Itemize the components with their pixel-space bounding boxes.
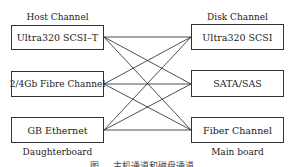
figure-caption: 图 … 主机通道和磁盘通道… bbox=[0, 159, 293, 167]
node-label: Ultra320 SCSI bbox=[202, 32, 272, 43]
node-label: GB Ethernet bbox=[27, 125, 87, 136]
node-label: SATA/SAS bbox=[213, 78, 262, 89]
host-node-ultra320-scsi-t: Ultra320 SCSI–T bbox=[11, 25, 104, 50]
disk-node-fiber-channel: Fiber Channel bbox=[191, 117, 284, 143]
daughterboard-label: Daughterboard bbox=[11, 147, 104, 157]
disk-node-ultra320-scsi: Ultra320 SCSI bbox=[191, 24, 284, 50]
node-label: Fiber Channel bbox=[203, 125, 272, 136]
node-label: Ultra320 SCSI–T bbox=[17, 32, 98, 43]
main-board-label: Main board bbox=[191, 147, 284, 157]
disk-node-sata-sas: SATA/SAS bbox=[191, 70, 284, 97]
host-node-gb-ethernet: GB Ethernet bbox=[11, 117, 104, 143]
host-node-fibre-channel: 2/4Gb Fibre Channel bbox=[11, 71, 104, 97]
node-label: 2/4Gb Fibre Channel bbox=[10, 79, 106, 89]
